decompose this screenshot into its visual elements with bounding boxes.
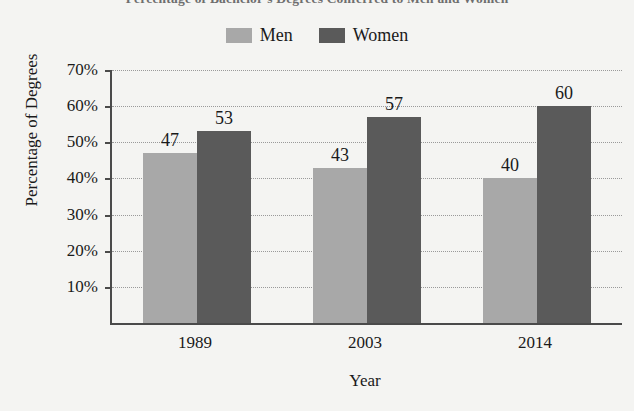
y-axis-tick-label: 30% — [67, 206, 98, 223]
y-axis-tick — [105, 142, 112, 144]
chart-title: Percentage of Bachelor's Degrees Conferr… — [0, 0, 634, 7]
bar-men-2003 — [313, 168, 367, 323]
y-axis-tick — [105, 287, 112, 289]
y-axis-tick — [105, 178, 112, 180]
bar-value-label-men-2003: 43 — [313, 146, 367, 164]
y-axis-tick — [105, 251, 112, 253]
x-axis-label-2003: 2003 — [305, 334, 425, 351]
y-axis-tick-label: 10% — [67, 278, 98, 295]
y-axis-tick-label: 50% — [67, 133, 98, 150]
y-axis-tick — [105, 106, 112, 108]
bar-women-1989 — [197, 131, 251, 323]
x-axis-category-labels: 198920032014 — [110, 334, 620, 358]
legend-item-women: Women — [319, 26, 409, 44]
legend-label-men: Men — [260, 26, 293, 44]
y-axis-tick-labels: 70%60%50%40%30%20%10% — [0, 70, 104, 323]
gridline — [112, 70, 622, 71]
bar-men-2014 — [483, 178, 537, 323]
bar-women-2003 — [367, 117, 421, 323]
y-axis-tick — [105, 70, 112, 72]
legend-swatch-women — [319, 28, 345, 43]
bar-value-label-men-1989: 47 — [143, 131, 197, 149]
legend-swatch-men — [226, 28, 252, 43]
bar-value-label-women-1989: 53 — [197, 109, 251, 127]
x-axis-label-2014: 2014 — [475, 334, 595, 351]
y-axis-tick — [105, 215, 112, 217]
legend-item-men: Men — [226, 26, 293, 44]
y-axis-tick-label: 70% — [67, 61, 98, 78]
x-axis-title: Year — [110, 371, 620, 391]
bar-value-label-men-2014: 40 — [483, 156, 537, 174]
y-axis-tick-label: 20% — [67, 242, 98, 259]
bar-men-1989 — [143, 153, 197, 323]
y-axis-tick-label: 40% — [67, 169, 98, 186]
plot-area: 475343574060 — [110, 70, 622, 325]
y-axis-title: Percentage of Degrees — [22, 10, 42, 250]
bar-value-label-women-2014: 60 — [537, 84, 591, 102]
chart-legend: Men Women — [0, 26, 634, 44]
bar-value-label-women-2003: 57 — [367, 95, 421, 113]
bar-women-2014 — [537, 106, 591, 323]
y-axis-tick-label: 60% — [67, 97, 98, 114]
x-axis-label-1989: 1989 — [135, 334, 255, 351]
legend-label-women: Women — [353, 26, 409, 44]
